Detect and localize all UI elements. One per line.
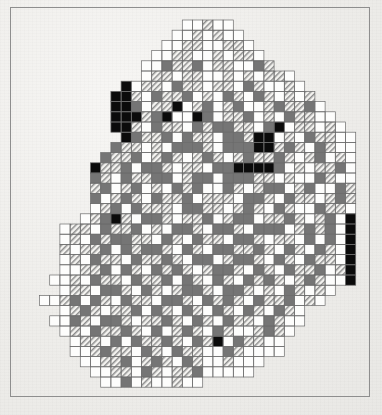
grid-cell-white — [182, 102, 192, 112]
grid-cell-white — [60, 234, 70, 244]
grid-cell-hatch — [233, 122, 243, 132]
grid-cell-hatch — [121, 346, 131, 356]
grid-cell-hatch — [264, 102, 274, 112]
grid-cell-hatch — [305, 91, 315, 101]
grid-cell-hatch — [111, 255, 121, 265]
grid-cell-white — [142, 193, 152, 203]
grid-cell-white — [91, 204, 101, 214]
grid-cell-hatch — [264, 153, 274, 163]
grid-cell-hatch — [80, 265, 90, 275]
grid-cell-white — [60, 285, 70, 295]
grid-cell-white — [142, 183, 152, 193]
grid-cell-hatch — [335, 265, 345, 275]
grid-cell-gray — [91, 234, 101, 244]
grid-cell-black — [121, 132, 131, 142]
grid-cell-white — [203, 51, 213, 61]
grid-cell-gray — [305, 234, 315, 244]
grid-cell-gray — [223, 316, 233, 326]
grid-cell-white — [264, 204, 274, 214]
grid-cell-black — [172, 102, 182, 112]
grid-cell-hatch — [213, 153, 223, 163]
grid-cell-hatch — [213, 81, 223, 91]
grid-cell-hatch — [274, 71, 284, 81]
grid-cell-gray — [274, 183, 284, 193]
grid-cell-white — [91, 224, 101, 234]
grid-cell-hatch — [91, 244, 101, 254]
grid-cell-hatch — [193, 71, 203, 81]
grid-cell-black — [254, 163, 264, 173]
grid-cell-hatch — [91, 346, 101, 356]
grid-cell-hatch — [172, 91, 182, 101]
grid-cell-white — [152, 51, 162, 61]
grid-cell-white — [142, 122, 152, 132]
grid-cell-hatch — [121, 285, 131, 295]
grid-cell-gray — [182, 326, 192, 336]
grid-cell-hatch — [284, 234, 294, 244]
grid-cell-white — [325, 153, 335, 163]
grid-cell-white — [213, 102, 223, 112]
grid-cell-white — [60, 275, 70, 285]
grid-cell-gray — [172, 142, 182, 152]
grid-cell-black — [346, 255, 356, 265]
grid-cell-gray — [142, 214, 152, 224]
grid-cell-white — [264, 255, 274, 265]
grid-cell-hatch — [162, 214, 172, 224]
grid-cell-hatch — [213, 295, 223, 305]
grid-cell-gray — [274, 163, 284, 173]
grid-cell-hatch — [121, 153, 131, 163]
grid-cell-hatch — [182, 367, 192, 377]
grid-cell-white — [284, 183, 294, 193]
grid-cell-white — [203, 30, 213, 40]
grid-cell-hatch — [152, 367, 162, 377]
grid-cell-gray — [80, 306, 90, 316]
grid-cell-hatch — [223, 81, 233, 91]
grid-cell-hatch — [274, 295, 284, 305]
grid-cell-hatch — [295, 193, 305, 203]
grid-cell-gray — [152, 122, 162, 132]
grid-cell-white — [60, 316, 70, 326]
grid-cell-hatch — [193, 40, 203, 50]
grid-cell-gray — [223, 244, 233, 254]
grid-cell-white — [274, 244, 284, 254]
grid-cell-hatch — [254, 153, 264, 163]
grid-cell-white — [162, 346, 172, 356]
grid-cell-white — [152, 377, 162, 387]
grid-cell-white — [111, 377, 121, 387]
grid-cell-hatch — [233, 265, 243, 275]
grid-cell-gray — [172, 295, 182, 305]
grid-cell-white — [254, 346, 264, 356]
grid-cell-hatch — [70, 234, 80, 244]
grid-cell-white — [70, 244, 80, 254]
grid-cell-white — [325, 265, 335, 275]
grid-cell-white — [162, 367, 172, 377]
grid-cell-gray — [162, 255, 172, 265]
grid-cell-gray — [203, 153, 213, 163]
grid-cell-gray — [142, 346, 152, 356]
grid-cell-gray — [193, 122, 203, 132]
grid-cell-gray — [233, 173, 243, 183]
grid-cell-hatch — [111, 346, 121, 356]
grid-cell-gray — [121, 326, 131, 336]
grid-cell-white — [172, 275, 182, 285]
grid-cell-white — [91, 316, 101, 326]
grid-cell-white — [233, 71, 243, 81]
grid-cell-hatch — [101, 173, 111, 183]
grid-cell-hatch — [91, 214, 101, 224]
grid-cell-white — [213, 357, 223, 367]
grid-cell-hatch — [162, 204, 172, 214]
grid-cell-hatch — [193, 224, 203, 234]
grid-cell-hatch — [203, 91, 213, 101]
grid-cell-hatch — [152, 81, 162, 91]
grid-cell-white — [233, 30, 243, 40]
grid-cell-gray — [223, 265, 233, 275]
grid-cell-gray — [264, 122, 274, 132]
grid-cell-gray — [121, 173, 131, 183]
grid-cell-gray — [121, 377, 131, 387]
grid-cell-hatch — [193, 214, 203, 224]
grid-cell-white — [274, 285, 284, 295]
grid-cell-white — [213, 91, 223, 101]
grid-cell-hatch — [233, 346, 243, 356]
grid-cell-hatch — [233, 224, 243, 234]
grid-cell-white — [274, 346, 284, 356]
grid-cell-hatch — [193, 357, 203, 367]
